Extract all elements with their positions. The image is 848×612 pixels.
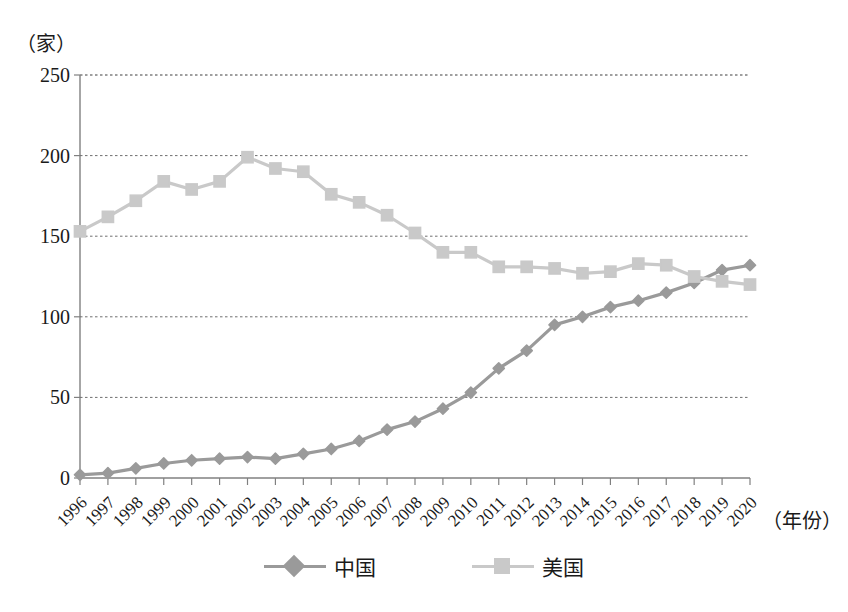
legend-key-usa [472,557,534,575]
x-axis-title: （年份） [762,505,842,534]
legend-entry-usa[interactable]: 美国 [472,551,584,581]
diamond-marker-icon [283,555,306,578]
y-tick-label: 100 [14,307,70,327]
y-tick-label: 0 [14,468,70,488]
chart-legend: 中国 美国 [0,546,848,586]
y-tick-label: 50 [14,387,70,407]
legend-label-usa: 美国 [542,551,584,581]
legend-key-china [264,557,326,575]
y-tick-label: 250 [14,65,70,85]
legend-label-china: 中国 [334,551,376,581]
y-tick-label: 150 [14,226,70,246]
chart-figure: （家） 050100150200250 19961997199819992000… [0,0,848,612]
y-tick-label: 200 [14,146,70,166]
legend-entry-china[interactable]: 中国 [264,551,376,581]
square-marker-icon [494,558,510,574]
